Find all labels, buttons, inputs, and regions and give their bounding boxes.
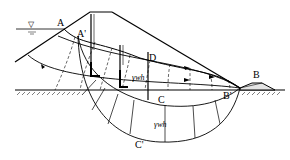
label-pressure-upper: γwh [132,74,145,82]
label-C-prime: C' [135,140,143,150]
label-C: C [158,95,165,105]
label-B: B [253,70,260,80]
pressure-head-mark [120,70,128,87]
water-level-icon: ▽ [28,21,34,29]
label-D: D [149,53,156,63]
arrow-head [184,78,190,82]
label-A: A [57,18,64,28]
pressure-arrows [82,80,220,142]
seepage-diagram [0,0,290,160]
equipotential-lines [55,37,230,90]
label-pressure-lower: γwh [154,121,167,129]
label-B-prime: B' [223,91,231,101]
ground-hatch-left [17,92,80,95]
label-A-prime: A' [77,29,86,39]
flow-line-2 [28,55,240,88]
ground-hatch-right [242,92,280,95]
